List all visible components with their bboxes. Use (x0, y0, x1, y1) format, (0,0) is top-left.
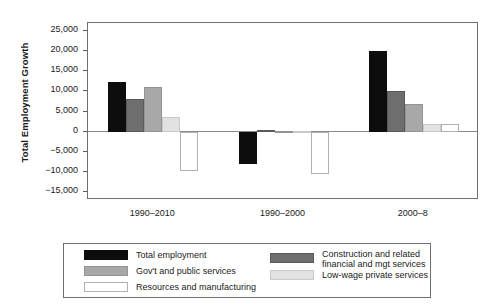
bar (257, 130, 275, 132)
y-axis-tick-label: 10,000 (18, 84, 78, 94)
bar (293, 131, 311, 133)
x-axis-tick-label: 1990–2010 (87, 208, 217, 218)
bar (311, 132, 329, 174)
y-axis-tick-label: −15,000 (18, 185, 78, 195)
bar (275, 131, 293, 133)
y-axis-tick-label: 5,000 (18, 105, 78, 115)
y-axis-tick-mark (83, 30, 87, 31)
chart-legend: Total employmentConstruction and related… (63, 243, 431, 298)
y-axis-tick-label: −10,000 (18, 165, 78, 175)
plot-inner (88, 23, 477, 198)
y-axis-tick-mark (83, 191, 87, 192)
bar (423, 124, 441, 132)
x-axis-tick-label: 1990–2000 (217, 208, 347, 218)
bar (239, 132, 257, 164)
mid-gray-swatch (84, 266, 128, 276)
y-axis-tick-mark (83, 131, 87, 132)
bar (108, 82, 126, 132)
y-axis-tick-mark (83, 171, 87, 172)
y-axis-tick-mark (83, 90, 87, 91)
y-axis-tick-mark (83, 70, 87, 71)
y-axis-tick-mark (83, 50, 87, 51)
bar (441, 124, 459, 132)
plot-area (87, 22, 478, 199)
legend-label: Resources and manufacturing (136, 282, 256, 292)
y-axis-tick-label: −5,000 (18, 145, 78, 155)
legend-label: Total employment (136, 250, 207, 260)
legend-label: Low-wage private services (322, 270, 428, 280)
black-swatch (84, 250, 128, 260)
light-gray-swatch (270, 270, 314, 280)
bar (405, 104, 423, 131)
bar (369, 51, 387, 132)
dark-gray-swatch (270, 253, 314, 263)
bar (387, 91, 405, 131)
y-axis-tick-label: 0 (18, 125, 78, 135)
bar (180, 132, 198, 171)
y-axis-tick-mark (83, 151, 87, 152)
bar (144, 87, 162, 131)
y-axis-tick-mark (83, 111, 87, 112)
bar (162, 117, 180, 132)
legend-label: Gov't and public services (136, 266, 236, 276)
x-axis-tick-label: 2000–8 (348, 208, 478, 218)
y-axis-tick-label: 25,000 (18, 24, 78, 34)
employment-growth-bar-chart: Total Employment Growth Total employment… (0, 0, 494, 304)
white-swatch (84, 282, 128, 292)
y-axis-tick-label: 15,000 (18, 64, 78, 74)
legend-label: Construction and relatedfinancial and mg… (322, 249, 426, 269)
bar (126, 99, 144, 132)
y-axis-tick-label: 20,000 (18, 44, 78, 54)
